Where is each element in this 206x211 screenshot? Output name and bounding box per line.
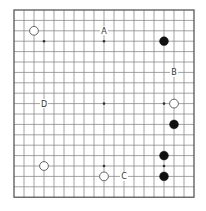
label-d: D [40,99,48,109]
black-stone [170,120,179,129]
star-point [103,165,106,168]
star-point [43,40,46,43]
star-point [163,102,166,105]
black-stone [160,172,169,181]
label-c: C [120,172,128,182]
white-stone [40,162,49,171]
star-point [163,165,166,168]
svg-text:B: B [171,68,177,77]
label-a: A [100,26,108,36]
star-point [103,102,106,105]
svg-text:A: A [101,27,107,36]
star-point [103,40,106,43]
white-stone [170,99,179,108]
black-stone [160,37,169,46]
go-board: ABCD [0,0,206,211]
black-stone [160,151,169,160]
white-stone [100,172,109,181]
svg-text:C: C [121,172,127,181]
svg-text:D: D [41,100,47,109]
white-stone [30,26,39,35]
label-b: B [170,68,178,78]
